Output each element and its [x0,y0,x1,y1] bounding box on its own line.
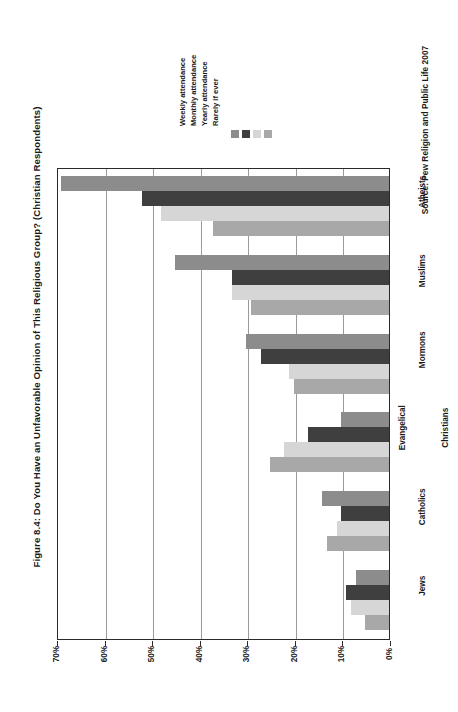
category-label: EvangelicalChristians [390,404,456,483]
axis-tick-label: 30% [241,641,253,667]
legend-label: Weekly attendance [177,36,188,126]
legend-swatch-rarely [264,130,272,138]
bar [365,615,389,630]
bar [246,334,389,349]
axis-tick-label: 10% [336,641,348,667]
chart-legend: Weekly attendanceMonthly attendanceYearl… [228,18,328,138]
bar [161,206,389,221]
bar [284,442,389,457]
plot-area [57,168,390,640]
bar-group [58,324,389,403]
legend-swatch-weekly [231,130,239,138]
category-label: Catholics [390,483,456,562]
page-title: Figure 8.4: Do You Have an Unfavorable O… [27,0,47,687]
category-label: Atheists [390,168,456,247]
axis-tick-label: 40% [194,641,206,667]
legend-label: Monthly attendance [188,36,199,126]
bar-group [58,482,389,561]
legend-swatch-yearly [253,130,261,138]
category-label: Muslims [390,247,456,326]
category-axis: JewsCatholicsEvangelicalChristiansMormon… [390,168,456,640]
category-label-text: Atheists [418,144,428,240]
legend-label: Rarely if ever [210,36,221,126]
bar [142,191,389,206]
category-label-text: Evangelical [398,406,408,451]
bar [61,176,389,191]
category-label: Mormons [390,325,456,404]
category-label: Jews [390,561,456,640]
bar [351,600,389,615]
legend-swatch-monthly [242,130,250,138]
bar [289,364,389,379]
bar [232,270,389,285]
bar [270,457,389,472]
figure-canvas: Figure 8.4: Do You Have an Unfavorable O… [0,0,458,712]
value-axis: 70%60%50%40%30%20%10%0% [57,641,390,681]
bar-group [58,403,389,482]
axis-tick-label: 60% [99,641,111,667]
axis-tick-label: 70% [51,641,63,667]
legend-entry: Rarely if ever [261,18,283,138]
bar [261,349,389,364]
bar-group [58,246,389,325]
bar [213,221,389,236]
bar [251,300,389,315]
axis-tick-label: 0% [384,641,396,667]
bar [294,379,389,394]
bar [232,285,389,300]
bar-group [58,560,389,639]
category-label-text: Christians [441,408,451,448]
bar [327,536,389,551]
bar [337,521,389,536]
axis-tick-label: 20% [289,641,301,667]
bar-group [58,167,389,246]
bar [175,255,389,270]
legend-label: Yearly attendance [199,36,210,126]
axis-tick-label: 50% [146,641,158,667]
